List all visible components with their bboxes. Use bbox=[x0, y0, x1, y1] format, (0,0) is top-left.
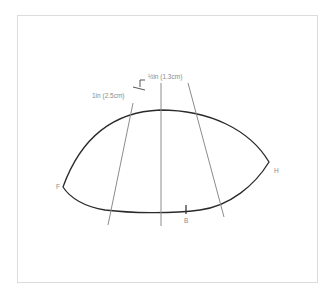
measurement-bracket bbox=[140, 80, 145, 87]
label-point-f: F bbox=[56, 183, 60, 190]
label-half-inch: ½in (1.3cm) bbox=[148, 73, 182, 81]
label-point-b: B bbox=[184, 217, 188, 224]
pattern-outline bbox=[63, 110, 269, 213]
bracket-tick bbox=[133, 87, 145, 90]
label-one-inch: 1in (2.5cm) bbox=[92, 92, 125, 100]
label-point-h: H bbox=[274, 167, 279, 174]
guide-line-right bbox=[188, 83, 224, 217]
pattern-diagram: ½in (1.3cm) 1in (2.5cm) F H B bbox=[0, 0, 333, 298]
guide-line-left bbox=[108, 103, 133, 225]
